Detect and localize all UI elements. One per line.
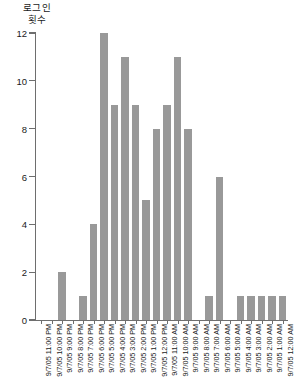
x-tick-label: 9/7/05 11:00 AM	[170, 324, 179, 384]
bar-slot[interactable]	[267, 33, 278, 320]
bar[interactable]	[237, 296, 245, 320]
x-tick-mark	[167, 320, 168, 324]
login-count-bar-chart: 로그인 횟수 024681012 9/7/05 11:00 PM9/7/05 1…	[0, 0, 295, 385]
x-tick-mark	[262, 320, 263, 324]
x-tick-label: 9/7/05 4:00 AM	[244, 324, 253, 384]
bar-slot[interactable]	[47, 33, 58, 320]
bar-slot[interactable]	[57, 33, 68, 320]
x-tick-label: 9/7/05 5:00 PM	[107, 324, 116, 384]
bar[interactable]	[163, 105, 171, 320]
bar[interactable]	[184, 129, 192, 320]
x-tick-mark	[136, 320, 137, 324]
bar[interactable]	[142, 200, 150, 320]
bar-slot[interactable]	[99, 33, 110, 320]
x-tick-label: 9/7/05 4:00 PM	[118, 324, 127, 384]
bar[interactable]	[247, 296, 255, 320]
y-tick-label: 0	[1, 315, 27, 326]
bar-slot[interactable]	[236, 33, 247, 320]
bar[interactable]	[100, 33, 108, 320]
bar[interactable]	[153, 129, 161, 320]
y-tick-mark	[29, 224, 36, 225]
x-tick-mark	[220, 320, 221, 324]
x-tick-mark	[94, 320, 95, 324]
bar[interactable]	[174, 57, 182, 320]
x-tick-mark	[73, 320, 74, 324]
bar[interactable]	[132, 105, 140, 320]
x-tick-label: 9/7/05 6:00 PM	[97, 324, 106, 384]
y-tick-mark	[29, 319, 36, 320]
x-tick-mark	[125, 320, 126, 324]
y-tick-label: 8	[1, 123, 27, 134]
x-tick-mark	[83, 320, 84, 324]
x-tick-label: 9/7/05 2:00 AM	[265, 324, 274, 384]
y-tick-mark	[29, 176, 36, 177]
x-tick-mark	[283, 320, 284, 324]
x-tick-label: 9/7/05 7:00 AM	[212, 324, 221, 384]
bar[interactable]	[205, 296, 213, 320]
bar-slot[interactable]	[173, 33, 184, 320]
y-tick-label: 4	[1, 219, 27, 230]
x-tick-mark	[199, 320, 200, 324]
y-tick-mark	[29, 80, 36, 81]
bar[interactable]	[111, 105, 119, 320]
x-tick-mark	[241, 320, 242, 324]
y-tick-mark	[29, 128, 36, 129]
y-tick-mark	[29, 32, 36, 33]
bar-slot[interactable]	[78, 33, 89, 320]
bar-slot[interactable]	[68, 33, 79, 320]
x-tick-label: 9/7/05 9:00 PM	[65, 324, 74, 384]
bar-slot[interactable]	[225, 33, 236, 320]
bar-slot[interactable]	[215, 33, 226, 320]
bar-slot[interactable]	[278, 33, 289, 320]
x-tick-mark	[272, 320, 273, 324]
plot-area	[36, 33, 288, 320]
bar[interactable]	[268, 296, 276, 320]
x-tick-label: 9/7/05 3:00 PM	[128, 324, 137, 384]
x-tick-mark	[52, 320, 53, 324]
x-tick-label: 9/7/05 8:00 PM	[76, 324, 85, 384]
x-tick-mark	[230, 320, 231, 324]
x-tick-label: 9/7/05 9:00 AM	[191, 324, 200, 384]
x-tick-label: 9/7/05 7:00 PM	[86, 324, 95, 384]
bar[interactable]	[258, 296, 266, 320]
x-tick-label: 9/7/05 1:00 AM	[275, 324, 284, 384]
bar-slot[interactable]	[246, 33, 257, 320]
bar-slot[interactable]	[120, 33, 131, 320]
x-tick-mark	[115, 320, 116, 324]
bar-slot[interactable]	[36, 33, 47, 320]
bar[interactable]	[279, 296, 287, 320]
bar[interactable]	[58, 272, 66, 320]
x-tick-label: 9/7/05 12:00 PM	[160, 324, 169, 384]
x-tick-mark	[62, 320, 63, 324]
bar[interactable]	[216, 177, 224, 321]
y-tick-label: 6	[1, 171, 27, 182]
bar-slot[interactable]	[183, 33, 194, 320]
bar[interactable]	[90, 224, 98, 320]
bar-slot[interactable]	[257, 33, 268, 320]
bar-slot[interactable]	[152, 33, 163, 320]
x-tick-label: 9/7/05 6:00 AM	[223, 324, 232, 384]
bar[interactable]	[121, 57, 129, 320]
x-tick-label: 9/7/05 10:00 AM	[181, 324, 190, 384]
x-tick-mark	[209, 320, 210, 324]
y-axis-title: 로그인 횟수	[6, 2, 68, 25]
bar[interactable]	[79, 296, 87, 320]
x-tick-label: 9/7/05 10:00 PM	[55, 324, 64, 384]
bar-slot[interactable]	[131, 33, 142, 320]
bar-slot[interactable]	[162, 33, 173, 320]
y-tick-label: 12	[1, 28, 27, 39]
x-tick-mark	[188, 320, 189, 324]
bar-slot[interactable]	[141, 33, 152, 320]
x-tick-mark	[157, 320, 158, 324]
x-tick-label: 9/7/05 8:00 AM	[202, 324, 211, 384]
bar-slot[interactable]	[89, 33, 100, 320]
bar-slot[interactable]	[194, 33, 205, 320]
x-axis-labels: 9/7/05 11:00 PM9/7/05 10:00 PM9/7/05 9:0…	[36, 324, 288, 384]
x-tick-label: 9/7/05 12:00 AM	[286, 324, 295, 384]
y-tick-label: 2	[1, 267, 27, 278]
bar-slot[interactable]	[110, 33, 121, 320]
x-tick-label: 9/7/05 3:00 AM	[254, 324, 263, 384]
bar-slot[interactable]	[204, 33, 215, 320]
y-tick-label: 10	[1, 75, 27, 86]
x-tick-label: 9/7/05 5:00 AM	[233, 324, 242, 384]
